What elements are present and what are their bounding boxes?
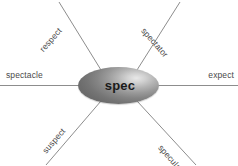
branch-label-expect: expect — [208, 70, 234, 80]
center-node-spec: spec — [78, 67, 159, 104]
center-node-label: spec — [78, 67, 159, 104]
branch-label-spectacle: spectacle — [6, 70, 43, 80]
word-web-diagram: spec spectacle expect respect spectator … — [0, 0, 238, 166]
connector-line-respect — [59, 2, 101, 70]
